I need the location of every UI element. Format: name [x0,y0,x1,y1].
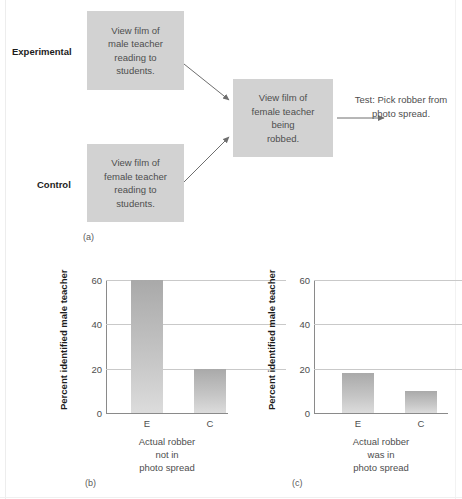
chart-c-gridline: 60 [314,280,462,281]
chart-c-gridline: 20 [314,369,462,370]
figure-page: Experimental Control View film of male t… [0,0,462,499]
flow-box-line: View film of [108,24,163,38]
chart-c-tick-label: 20 [299,365,310,375]
chart-c-tick-label: 40 [299,320,310,330]
flow-box-line: View film of [104,156,167,170]
chart-c-bar-label-C: C [406,418,436,429]
chart-b-plot-area: 60 40 20 0 E C Actual robber not in phot… [106,280,228,413]
flow-box-line: reading to [104,183,167,197]
flow-box-line: students. [108,64,163,78]
chart-b-y-axis-label: Percent identified male teacher [58,270,72,410]
chart-c-bar-label-E: E [343,418,373,429]
chart-c-was-in-spread: Percent identified male teacher 60 40 20… [268,270,462,470]
flow-arrows [0,0,462,248]
panel-a-flow-diagram: Experimental Control View film of male t… [0,0,462,248]
chart-c-tick-label: 60 [299,276,310,286]
page-edge-bottom [0,497,462,498]
chart-b-x-caption-line: not in [155,449,178,460]
flow-box-robbery-film: View film of female teacher being robbed… [233,79,333,157]
chart-b-tick-label: 40 [91,320,102,330]
chart-c-y-axis [314,280,315,414]
flow-box-line: reading to [108,51,163,65]
chart-b-bar-label-E: E [132,418,162,429]
chart-b-tick-label: 0 [97,409,102,419]
chart-c-x-caption-line: Actual robber [353,436,410,447]
panel-caption-a: (a) [83,232,94,242]
flow-box-line: male teacher [108,37,163,51]
chart-c-plot-area: 60 40 20 0 E C Actual robber was in phot… [314,280,448,413]
chart-c-gridline: 40 [314,324,462,325]
flow-box-control-film: View film of female teacher reading to s… [87,144,184,222]
flow-box-line: female teacher [252,105,315,119]
chart-c-x-caption-line: photo spread [353,462,408,473]
test-label-line: Pick robber [378,94,426,105]
flow-box-line: female teacher [104,170,167,184]
chart-b-bar-label-C: C [195,418,225,429]
chart-c-zero-line: 0 [314,413,462,414]
flow-box-experimental-film: View film of male teacher reading to stu… [87,11,184,90]
chart-b-y-axis [106,280,107,414]
test-label-line: photo spread. [372,108,430,119]
flow-box-line: being [252,118,315,132]
chart-b-x-caption-line: Actual robber [139,436,196,447]
test-label-line: from [428,94,447,105]
flow-box-line: View film of [252,91,315,105]
panel-caption-c: (c) [292,478,303,488]
chart-c-bar-E [342,373,374,413]
panel-caption-b: (b) [85,478,96,488]
flow-box-line: students. [104,197,167,211]
chart-b-x-caption-line: photo spread [139,462,194,473]
flow-box-line: robbed. [252,132,315,146]
chart-c-bar-C [405,391,437,413]
group-label-experimental: Experimental [12,46,72,57]
test-label-line: Test: [355,94,375,105]
chart-c-y-axis-label: Percent identified male teacher [266,270,280,410]
chart-b-x-axis-caption: Actual robber not in photo spread [106,435,228,474]
group-label-control: Control [37,179,71,190]
chart-c-x-axis-caption: Actual robber was in photo spread [314,435,448,474]
chart-b-zero-line: 0 [106,413,286,414]
chart-b-not-in-spread: Percent identified male teacher 60 40 20… [60,270,260,470]
chart-c-x-caption-line: was in [368,449,395,460]
chart-b-tick-label: 60 [91,276,102,286]
test-outcome-label: Test: Pick robber from photo spread. [346,93,456,120]
chart-c-tick-label: 0 [305,409,310,419]
chart-b-bar-C [194,369,226,413]
chart-b-bar-E [131,280,163,413]
chart-b-tick-label: 20 [91,365,102,375]
